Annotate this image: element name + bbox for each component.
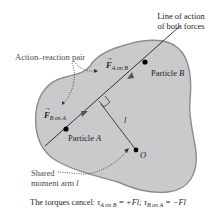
moment-arm-symbol: l — [124, 115, 126, 125]
force-b-on-a-label: FB on A — [44, 110, 66, 123]
shared-moment-arm-var: l — [76, 178, 78, 188]
line-of-action-text-2: of both forces — [150, 21, 212, 31]
force-a-on-b-label: FA on B — [106, 60, 128, 73]
particle-b-var: B — [179, 68, 184, 78]
tau-b-on-a-value: = −Fl — [163, 198, 186, 207]
force-a-on-b-symbol: F — [106, 60, 112, 70]
force-b-on-a-subscript: B on A — [50, 115, 66, 121]
shared-moment-arm-label: Shared moment arm l — [31, 168, 79, 188]
tau-b-on-a-sub: B on A — [147, 202, 163, 208]
particle-a-label: Particle A — [68, 133, 101, 143]
particle-b-dot — [142, 59, 147, 64]
particle-a-dot — [63, 126, 68, 131]
particle-b-label: Particle B — [151, 68, 184, 78]
caption-prefix: The torques cancel: — [30, 198, 97, 207]
origin-label: O — [140, 150, 146, 160]
action-reaction-label: Action–reaction pair — [15, 52, 85, 62]
force-b-on-a-symbol: F — [44, 110, 50, 120]
tau-a-on-b-value: = +Fl; — [116, 198, 144, 207]
particle-b-text: Particle — [151, 68, 179, 78]
line-of-action-text-1: Line of action — [150, 11, 212, 21]
caption: The torques cancel: τA on B = +Fl; τB on… — [0, 198, 216, 208]
shared-moment-arm-text-1: Shared — [31, 168, 79, 178]
particle-a-var: A — [96, 133, 101, 143]
tau-a-on-b-sub: A on B — [100, 202, 116, 208]
force-a-on-b-subscript: A on B — [112, 65, 128, 71]
line-of-action-label: Line of action of both forces — [150, 11, 212, 31]
shared-moment-arm-text-2-wrap: moment arm l — [31, 178, 79, 188]
origin-dot — [134, 148, 139, 153]
particle-a-text: Particle — [68, 133, 96, 143]
shared-moment-arm-text-2: moment arm — [31, 178, 76, 188]
